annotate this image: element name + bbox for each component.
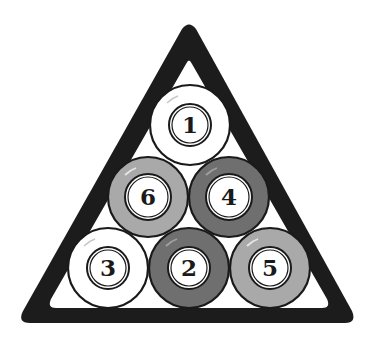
ball-5: 5 — [230, 228, 310, 308]
ball-6: 6 — [108, 157, 188, 237]
ball-number-label: 1 — [182, 111, 198, 138]
ball-number-label: 3 — [100, 254, 116, 281]
ball-2: 2 — [149, 228, 229, 308]
ball-number-label: 6 — [140, 183, 156, 210]
ball-number-label: 4 — [221, 183, 237, 210]
ball-4: 4 — [189, 157, 269, 237]
ball-number-label: 2 — [181, 254, 197, 281]
ball-number-label: 5 — [262, 254, 278, 281]
pool-rack-diagram: 1 6 4 3 2 5 — [0, 0, 370, 340]
ball-1: 1 — [150, 85, 230, 165]
ball-3: 3 — [68, 228, 148, 308]
